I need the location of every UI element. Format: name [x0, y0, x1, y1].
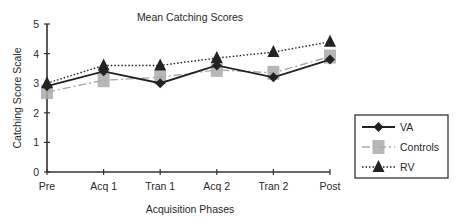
x-tick-label: Tran 2 — [258, 180, 288, 192]
x-tick-label: Post — [319, 180, 340, 192]
legend-label: RV — [400, 161, 414, 173]
x-tick-label: Tran 1 — [145, 180, 175, 192]
y-tick-label: 3 — [33, 77, 39, 89]
x-axis-label: Acquisition Phases — [146, 203, 235, 215]
y-tick-label: 1 — [33, 136, 39, 148]
line-chart: Mean Catching Scores Catching Score Scal… — [0, 0, 457, 224]
series-line — [47, 42, 330, 83]
y-tick-label: 5 — [33, 18, 39, 30]
x-tick-label: Pre — [39, 180, 56, 192]
series-rv — [41, 35, 336, 88]
chart-title: Mean Catching Scores — [137, 11, 243, 23]
legend-item-controls: Controls — [362, 140, 439, 154]
y-tick-label: 0 — [33, 166, 39, 178]
legend: VAControlsRV — [355, 115, 448, 178]
chart-canvas: Mean Catching Scores Catching Score Scal… — [0, 0, 457, 224]
x-tick-label: Acq 2 — [203, 180, 230, 192]
x-tick-label: Acq 1 — [90, 180, 117, 192]
legend-label: Controls — [400, 141, 439, 153]
y-tick-label: 4 — [33, 48, 39, 60]
triangle-marker — [324, 35, 336, 47]
series-line — [47, 60, 330, 87]
legend-square-icon — [373, 140, 385, 154]
triangle-marker — [98, 58, 110, 70]
series-layer — [41, 35, 336, 99]
legend-label: VA — [400, 121, 413, 133]
y-tick-label: 2 — [33, 107, 39, 119]
axes: 012345PreAcq 1Tran 1Acq 2Tran 2Post — [33, 18, 340, 192]
series-va — [42, 55, 335, 92]
y-axis-label: Catching Score Scale — [11, 47, 23, 148]
triangle-marker — [211, 51, 223, 63]
triangle-marker — [267, 45, 279, 57]
